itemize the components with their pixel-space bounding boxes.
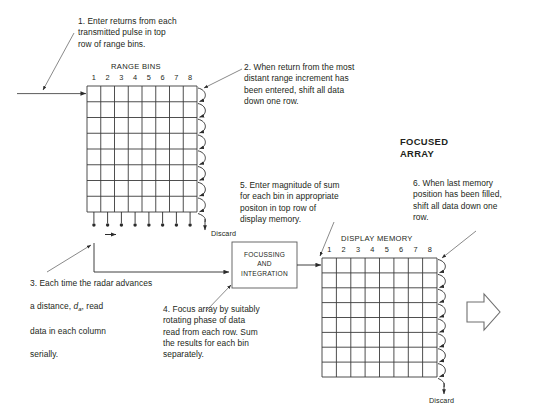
discard-label-display-memory: Discard — [429, 396, 454, 405]
range-bins-col-2: 2 — [101, 73, 115, 82]
display-memory-col-5: 5 — [380, 245, 394, 254]
range-bins-column-taps — [92, 212, 192, 227]
display-memory-col-3: 3 — [351, 245, 365, 254]
note-2-text: 2. When return from the most distant ran… — [244, 62, 404, 107]
display-memory-grid — [322, 258, 437, 377]
display-memory-col-1: 1 — [322, 245, 336, 254]
range-bins-col-1: 1 — [87, 73, 101, 82]
note-6-leader — [442, 231, 476, 258]
range-bins-col-7: 7 — [169, 73, 183, 82]
display-memory-col-6: 6 — [394, 245, 408, 254]
range-bins-col-4: 4 — [128, 73, 142, 82]
note-6-text: 6. When last memory position has been fi… — [413, 178, 543, 223]
discard-label-range-bins: Discard — [211, 229, 236, 238]
display-memory-col-8: 8 — [423, 245, 437, 254]
display-memory-col-7: 7 — [408, 245, 422, 254]
note-3-line-4: serially. — [30, 349, 58, 359]
note-2-leader — [204, 69, 242, 88]
range-bins-col-3: 3 — [114, 73, 128, 82]
note-1-text: 1. Enter returns from each transmitted p… — [78, 16, 218, 50]
display-memory-col-2: 2 — [337, 245, 351, 254]
note-3-line-2: a distance, da, read — [30, 301, 103, 311]
focussing-integration-label: FOCUSSING AND INTEGRATION — [232, 250, 297, 278]
note-3-line-1: 3. Each time the radar advances — [30, 278, 152, 288]
range-bins-shift-arrows — [198, 88, 205, 230]
range-bins-label: RANGE BINS — [111, 62, 161, 71]
range-bins-col-5: 5 — [142, 73, 156, 82]
note-3-line-3: data in each column — [30, 326, 106, 336]
diagram-canvas: 1. Enter returns from each transmitted p… — [0, 0, 554, 415]
range-bins-col-8: 8 — [183, 73, 197, 82]
note-5-text: 5. Enter magnitude of sum for each bin i… — [240, 180, 400, 225]
display-memory-col-4: 4 — [365, 245, 379, 254]
range-bins-col-6: 6 — [156, 73, 170, 82]
range-bins-grid — [87, 86, 197, 212]
display-output-block-arrow — [467, 294, 500, 330]
display-memory-label: DISPLAY MEMORY — [341, 234, 413, 243]
note-1-leader — [43, 33, 74, 90]
note-4-text: 4. Focus array by suitably rotating phas… — [163, 304, 328, 360]
display-memory-shift-arrows — [438, 260, 445, 395]
focused-array-label: FOCUSED ARRAY — [400, 136, 448, 160]
